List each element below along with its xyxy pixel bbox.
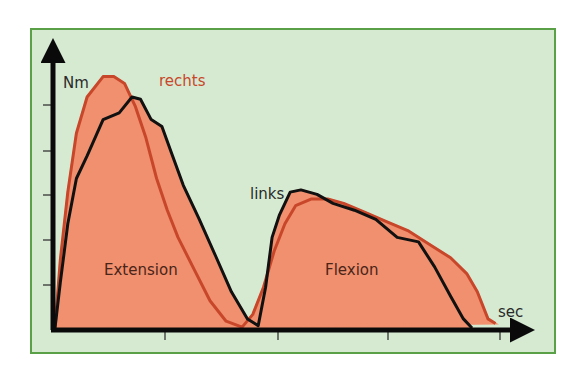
x-axis-label: sec xyxy=(498,305,523,320)
extension-label: Extension xyxy=(104,263,178,278)
rechts-label: rechts xyxy=(159,74,206,89)
y-axis-label: Nm xyxy=(63,76,89,91)
torque-time-plot xyxy=(0,0,581,371)
flexion-label: Flexion xyxy=(325,263,379,278)
links-label: links xyxy=(250,187,284,202)
